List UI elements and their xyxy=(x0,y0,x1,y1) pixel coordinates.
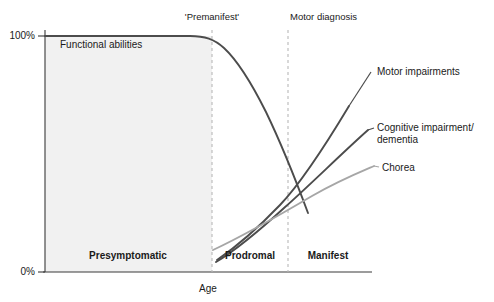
figure-container: 100% 0% 'Premanifest' Motor diagnosis Fu… xyxy=(0,0,494,302)
label-functional-abilities: Functional abilities xyxy=(60,39,142,50)
y-tick-label-100: 100% xyxy=(9,30,35,41)
stage-label-prodromal: Prodromal xyxy=(225,250,275,261)
series-label-cognitive-impairment-line2: dementia xyxy=(377,134,419,145)
annotation-motor-diagnosis: Motor diagnosis xyxy=(290,11,357,22)
curve-chorea xyxy=(213,166,374,250)
curve-motor-impairments xyxy=(217,106,349,260)
series-label-chorea: Chorea xyxy=(382,162,415,173)
leader-cognitive-impairment xyxy=(368,128,374,130)
series-label-motor-impairments: Motor impairments xyxy=(377,66,460,77)
leader-chorea xyxy=(374,166,379,167)
x-axis-label: Age xyxy=(199,283,217,294)
series-label-cognitive-impairment: Cognitive impairment/ xyxy=(377,122,474,133)
stage-label-manifest: Manifest xyxy=(308,250,349,261)
progression-chart: 100% 0% 'Premanifest' Motor diagnosis Fu… xyxy=(0,0,494,302)
stage-label-presymptomatic: Presymptomatic xyxy=(89,250,167,261)
annotation-premanifest: 'Premanifest' xyxy=(185,11,240,22)
leader-motor-impairments xyxy=(349,72,371,106)
y-tick-label-0: 0% xyxy=(21,266,36,277)
curve-cognitive-impairment xyxy=(216,130,368,262)
presymptomatic-shaded-region xyxy=(45,36,212,272)
